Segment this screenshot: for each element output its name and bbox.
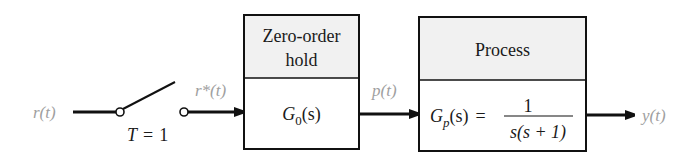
switch-arm — [123, 82, 175, 109]
sampled-signal-label: r*(t) — [195, 81, 227, 100]
process-title: Process — [475, 40, 530, 60]
input-signal-label: r(t) — [33, 103, 56, 122]
sampling-period-label: T=1 — [127, 125, 168, 145]
output-signal-label: y(t) — [640, 106, 666, 125]
zoh-title-line1: Zero-order — [263, 26, 341, 46]
switch-contact-icon — [180, 108, 188, 116]
switch-pivot-icon — [116, 108, 124, 116]
zoh-title-line2: hold — [285, 50, 317, 70]
process-tf-numerator: 1 — [524, 96, 533, 116]
process-tf-denominator: s(s + 1) — [510, 122, 566, 143]
process-block: Process Gp(s)= 1 s(s + 1) — [419, 17, 586, 151]
hold-output-label: p(t) — [371, 81, 397, 100]
block-diagram: r(t) T=1 r*(t) Zero-order hold G0(s) p(t… — [0, 0, 699, 162]
sampler-switch — [116, 82, 188, 116]
zoh-block: Zero-order hold G0(s) — [244, 15, 359, 149]
